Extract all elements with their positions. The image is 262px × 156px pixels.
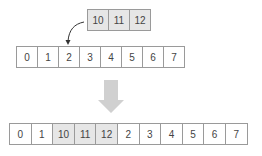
result-cell-inserted: 12 — [95, 123, 118, 145]
result-cell: 2 — [117, 123, 140, 145]
original-array-row: 0 1 2 3 4 5 6 7 — [16, 46, 185, 68]
array-cell: 0 — [16, 46, 38, 68]
result-cell: 0 — [9, 123, 32, 145]
array-cell: 3 — [79, 46, 101, 68]
array-cell: 7 — [163, 46, 185, 68]
result-array-row: 0 1 10 11 12 2 3 4 5 6 7 — [9, 123, 248, 145]
down-arrow-icon — [98, 80, 124, 113]
result-cell: 5 — [182, 123, 205, 145]
array-cell: 4 — [100, 46, 122, 68]
result-cell-inserted: 11 — [74, 123, 97, 145]
result-cell-inserted: 10 — [52, 123, 75, 145]
curved-insert-arrow-icon — [68, 22, 84, 41]
array-cell: 6 — [142, 46, 164, 68]
array-cell: 5 — [121, 46, 143, 68]
curved-arrow-head-icon — [66, 40, 71, 45]
result-cell: 7 — [225, 123, 248, 145]
result-cell: 4 — [160, 123, 183, 145]
array-cell: 1 — [37, 46, 59, 68]
result-cell: 3 — [139, 123, 162, 145]
array-cell: 2 — [58, 46, 80, 68]
result-cell: 1 — [31, 123, 54, 145]
result-cell: 6 — [203, 123, 226, 145]
